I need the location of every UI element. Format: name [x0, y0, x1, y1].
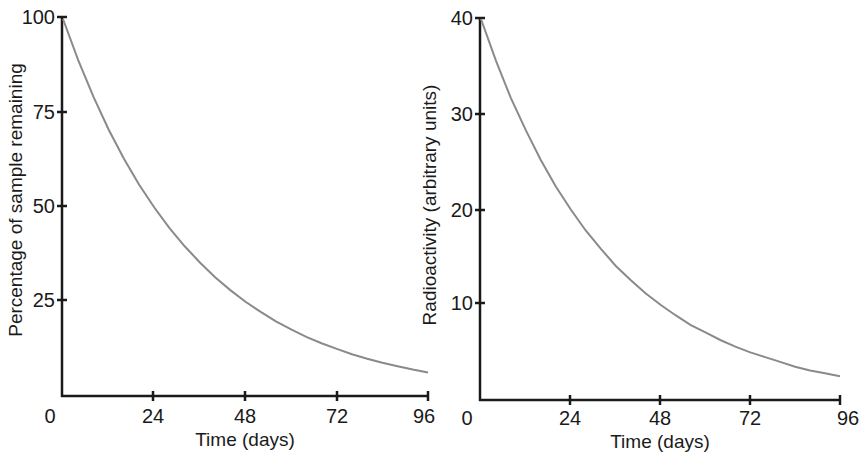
right-y-tick-label: 20 — [451, 199, 473, 221]
right-x-axis-title: Time (days) — [610, 431, 710, 452]
left-y-axis-title: Percentage of sample remaining — [5, 63, 26, 337]
right-x-tick-label: 24 — [559, 407, 581, 429]
right-x-tick-label: 96 — [837, 407, 859, 429]
decay-charts: 100 75 50 25 0 24 48 72 96 Time (days) P… — [0, 0, 867, 467]
right-decay-curve — [481, 19, 840, 376]
right-chart: 40 30 20 10 0 24 48 72 96 Time (days) Ra… — [419, 7, 859, 452]
right-y-tick-label: 10 — [451, 292, 473, 314]
left-chart: 100 75 50 25 0 24 48 72 96 Time (days) P… — [5, 6, 435, 450]
left-x-tick-label: 24 — [142, 405, 164, 427]
left-y-tick-label: 50 — [33, 195, 55, 217]
left-y-tick-label: 25 — [33, 289, 55, 311]
left-x-tick-label: 48 — [234, 405, 256, 427]
right-x-tick-label: 0 — [461, 407, 472, 429]
left-x-tick-label: 0 — [44, 405, 55, 427]
left-x-tick-label: 72 — [326, 405, 348, 427]
right-x-tick-label: 48 — [649, 407, 671, 429]
right-x-tick-label: 72 — [739, 407, 761, 429]
right-y-axis-title: Radioactivity (arbitrary units) — [419, 85, 440, 326]
left-y-tick-label: 100 — [22, 6, 55, 28]
left-y-tick-label: 75 — [33, 101, 55, 123]
left-x-axis-title: Time (days) — [195, 429, 295, 450]
left-decay-curve — [63, 19, 428, 372]
right-y-tick-label: 30 — [451, 103, 473, 125]
right-y-tick-label: 40 — [451, 7, 473, 29]
left-x-tick-label: 96 — [413, 405, 435, 427]
